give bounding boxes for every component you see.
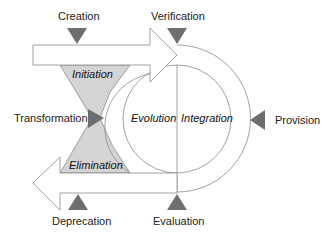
provision-label: Provision xyxy=(275,115,320,126)
transformation-label: Transformation xyxy=(14,113,88,124)
deprecation-marker-icon xyxy=(68,194,88,210)
creation-marker-icon xyxy=(67,28,87,44)
integration-phase-label: Integration xyxy=(181,113,233,124)
initiation-phase-label: Initiation xyxy=(72,69,113,80)
creation-label: Creation xyxy=(58,11,100,22)
evolution-phase-label: Evolution xyxy=(131,113,176,124)
evaluation-label: Evaluation xyxy=(153,216,204,227)
evaluation-marker-icon xyxy=(167,194,187,210)
deprecation-label: Deprecation xyxy=(52,216,111,227)
elimination-phase-label: Elimination xyxy=(69,160,123,171)
verification-label: Verification xyxy=(151,11,205,22)
verification-marker-icon xyxy=(167,28,187,44)
provision-marker-icon xyxy=(250,110,265,130)
